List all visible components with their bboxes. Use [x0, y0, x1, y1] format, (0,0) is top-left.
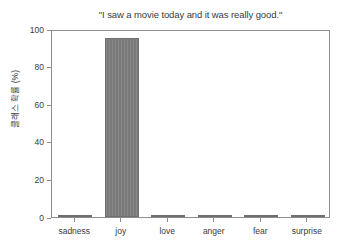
bar-slot	[285, 31, 332, 217]
bar-slot	[238, 31, 285, 217]
x-tick-mark	[120, 218, 121, 222]
y-tick-label: 20	[4, 176, 44, 185]
y-tick-label: 80	[4, 63, 44, 72]
bar-fear	[244, 215, 278, 217]
x-tick-mark	[167, 218, 168, 222]
y-tick-label: 0	[4, 214, 44, 223]
bars-layer	[52, 31, 329, 217]
x-tick-mark	[306, 218, 307, 222]
chart-title: "I saw a movie today and it was really g…	[51, 9, 330, 21]
y-tick-label: 60	[4, 101, 44, 110]
x-tick-label-surprise: surprise	[272, 226, 342, 236]
y-tick-label: 100	[4, 26, 44, 35]
bar-slot	[52, 31, 99, 217]
plot-area	[51, 30, 330, 218]
x-tick-mark	[74, 218, 75, 222]
bar-slot	[145, 31, 192, 217]
bar-slot	[192, 31, 239, 217]
bar-sadness	[58, 215, 92, 217]
x-tick-mark	[260, 218, 261, 222]
bar-slot	[99, 31, 146, 217]
y-tick-label: 40	[4, 138, 44, 147]
bar-joy	[105, 38, 139, 217]
bar-chart-figure: "I saw a movie today and it was really g…	[0, 0, 352, 252]
bar-anger	[198, 215, 232, 217]
x-tick-mark	[213, 218, 214, 222]
bar-surprise	[291, 215, 325, 217]
bar-love	[151, 215, 185, 217]
